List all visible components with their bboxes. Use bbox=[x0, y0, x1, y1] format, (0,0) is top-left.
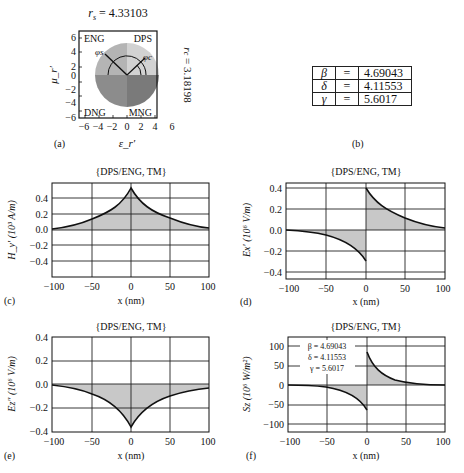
svg-text:0: 0 bbox=[129, 281, 134, 292]
panel-a-label: (a) bbox=[54, 138, 65, 150]
svg-text:−0.4: −0.4 bbox=[30, 256, 48, 267]
svg-text:50: 50 bbox=[274, 360, 284, 371]
svg-text:0.2: 0.2 bbox=[270, 204, 283, 215]
param-symbol: δ bbox=[313, 80, 336, 93]
quadrant-dng bbox=[95, 75, 127, 107]
svg-text:4: 4 bbox=[153, 121, 158, 132]
param-value: 4.69043 bbox=[359, 67, 412, 80]
panel-f-ylabel: Sz (10⁶ W/m²) bbox=[241, 356, 253, 412]
panel-e: {DPS/ENG, TM} 0.40.2 0.0−0.2 −0.4 −100−5… bbox=[4, 321, 216, 462]
svg-text:−50: −50 bbox=[268, 399, 284, 410]
quadrant-label-mng: MNG bbox=[129, 107, 152, 118]
svg-text:−50: −50 bbox=[84, 436, 100, 447]
svg-text:−100: −100 bbox=[263, 419, 284, 430]
table-row: γ = 5.6017 bbox=[313, 93, 412, 106]
svg-text:0.4: 0.4 bbox=[36, 193, 49, 204]
phi-c-label: φc bbox=[143, 52, 152, 62]
panel-d-title: {DPS/ENG, TM} bbox=[330, 166, 401, 177]
panel-e-fill bbox=[52, 384, 209, 427]
svg-text:0.4: 0.4 bbox=[36, 332, 49, 343]
svg-text:4: 4 bbox=[71, 46, 76, 57]
svg-text:0.4: 0.4 bbox=[270, 183, 283, 194]
param-value: 5.6017 bbox=[359, 93, 412, 106]
svg-text:0.0: 0.0 bbox=[36, 379, 49, 390]
svg-text:−50: −50 bbox=[318, 283, 334, 294]
panel-a-title: rs = 4.33103 bbox=[88, 6, 148, 22]
svg-text:100: 100 bbox=[269, 341, 284, 352]
svg-text:−0.2: −0.2 bbox=[264, 246, 282, 257]
svg-text:β = 4.69043: β = 4.69043 bbox=[308, 342, 347, 351]
svg-text:−100: −100 bbox=[279, 283, 300, 294]
svg-text:−100: −100 bbox=[44, 436, 65, 447]
svg-text:100: 100 bbox=[201, 436, 216, 447]
svg-text:6: 6 bbox=[170, 121, 175, 132]
svg-text:−6: −6 bbox=[79, 121, 90, 132]
panel-c-xticks: −100−50 050 100 bbox=[44, 281, 216, 292]
panel-e-xticks: −100−50 050 100 bbox=[44, 436, 216, 447]
panel-a-xlabel: ε_r′ bbox=[119, 137, 136, 149]
svg-text:0: 0 bbox=[364, 283, 369, 294]
svg-text:−0.2: −0.2 bbox=[30, 402, 48, 413]
svg-text:50: 50 bbox=[165, 436, 175, 447]
panel-d-yticks: 0.40.2 0.0−0.2 −0.4 bbox=[264, 183, 282, 278]
svg-text:0: 0 bbox=[71, 70, 76, 81]
panel-a: rs = 4.33103 ENG DPS DNG MNG φs φc bbox=[47, 6, 194, 150]
svg-text:50: 50 bbox=[400, 283, 410, 294]
panel-e-label: (e) bbox=[4, 450, 15, 462]
param-equals: = bbox=[336, 67, 359, 80]
param-equals: = bbox=[336, 93, 359, 106]
svg-text:2: 2 bbox=[139, 121, 144, 132]
panel-c-title: {DPS/ENG, TM} bbox=[95, 166, 166, 177]
svg-text:50: 50 bbox=[165, 281, 175, 292]
quadrant-label-eng: ENG bbox=[84, 33, 105, 44]
panel-e-ylabel: Ez″ (10⁶ V/m) bbox=[6, 356, 18, 413]
svg-text:−0.4: −0.4 bbox=[264, 267, 282, 278]
panel-f-xticks: −100−50 050 100 bbox=[280, 436, 451, 447]
param-value: 4.11553 bbox=[359, 80, 412, 93]
svg-text:0: 0 bbox=[279, 380, 284, 391]
table-row: β = 4.69043 bbox=[313, 67, 412, 80]
panel-f-xlabel: x (nm) bbox=[353, 450, 380, 462]
svg-text:−0.2: −0.2 bbox=[30, 240, 48, 251]
quadrant-label-dng: DNG bbox=[84, 107, 106, 118]
quadrant-mng bbox=[127, 75, 159, 107]
table-row: δ = 4.11553 bbox=[313, 80, 412, 93]
panel-f-title: {DPS/ENG, TM} bbox=[330, 321, 401, 332]
svg-text:0: 0 bbox=[125, 121, 130, 132]
svg-text:0: 0 bbox=[129, 436, 134, 447]
svg-text:100: 100 bbox=[436, 283, 451, 294]
panel-c: {DPS/ENG, TM} 0.40.2 0.0−0.2 −0.4 −100−5… bbox=[4, 166, 216, 307]
panel-d-label: (d) bbox=[240, 296, 252, 308]
panel-c-ylabel: H_y′ (10³ A/m) bbox=[6, 200, 18, 261]
quadrant-label-dps: DPS bbox=[134, 33, 152, 44]
svg-text:−4: −4 bbox=[65, 97, 76, 108]
panel-e-xlabel: x (nm) bbox=[118, 450, 145, 462]
panel-e-yticks: 0.40.2 0.0−0.2 −0.4 bbox=[30, 332, 48, 437]
panel-d-ylabel: Ex′ (10⁶ V/m) bbox=[241, 202, 253, 258]
panel-b-label: (b) bbox=[352, 138, 364, 150]
svg-text:50: 50 bbox=[401, 436, 411, 447]
svg-text:100: 100 bbox=[201, 281, 216, 292]
param-symbol: γ bbox=[313, 93, 336, 106]
svg-text:0.2: 0.2 bbox=[36, 209, 49, 220]
param-equals: = bbox=[336, 80, 359, 93]
svg-text:−50: −50 bbox=[84, 281, 100, 292]
svg-text:γ = 5.6017: γ = 5.6017 bbox=[309, 364, 344, 373]
panel-c-label: (c) bbox=[4, 295, 15, 307]
svg-text:δ = 4.11553: δ = 4.11553 bbox=[308, 353, 346, 362]
panel-e-title: {DPS/ENG, TM} bbox=[95, 321, 166, 332]
panel-a-ylabel: μ_r′ bbox=[47, 66, 59, 85]
panel-f: {DPS/ENG, TM} β = 4.69043 δ = 4.11553 γ … bbox=[241, 321, 451, 462]
svg-text:0.0: 0.0 bbox=[270, 225, 283, 236]
svg-text:6: 6 bbox=[71, 32, 76, 43]
panel-f-yticks: 10050 0−50 −100 bbox=[263, 341, 284, 430]
panel-d-xlabel: x (nm) bbox=[353, 296, 380, 308]
svg-text:100: 100 bbox=[436, 436, 451, 447]
panel-f-label: (f) bbox=[246, 450, 256, 462]
panel-d-xticks: −100−50 050 100 bbox=[279, 283, 451, 294]
panel-a-yticks: 642 0−2−4−6 bbox=[65, 32, 76, 123]
svg-text:−2: −2 bbox=[65, 84, 76, 95]
panel-a-xticks: −6−4−2 0246 bbox=[79, 121, 175, 132]
phi-s-label: φs bbox=[95, 47, 104, 57]
svg-text:−6: −6 bbox=[65, 112, 76, 123]
